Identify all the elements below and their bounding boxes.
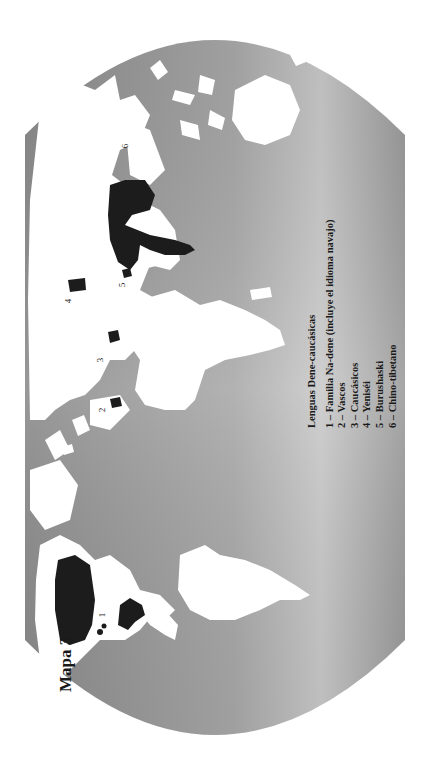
legend-item: 2 – Vascos	[336, 219, 349, 428]
region-label-6: 6	[120, 144, 130, 149]
region-label-5: 5	[117, 283, 127, 288]
legend-title: Lenguas Dene-caucásicas	[306, 219, 319, 428]
legend-item: 5 – Burushaski	[374, 219, 387, 428]
region-label-2: 2	[97, 408, 107, 413]
legend-item: 1 – Familia Na-dene (incluye el idioma n…	[324, 219, 337, 428]
legend-item: 4 – Yeniséi	[361, 219, 374, 428]
legend-item: 6 – Chino-tibetano	[387, 219, 400, 428]
region-vascos	[110, 397, 122, 408]
region-label-4: 4	[63, 299, 73, 304]
region-label-1: 1	[97, 613, 107, 618]
legend: Lenguas Dene-caucásicas 1 – Familia Na-d…	[306, 219, 399, 428]
region-yenisei	[68, 278, 86, 292]
region-label-3: 3	[95, 358, 105, 363]
map-title: Mapa 3	[56, 637, 76, 692]
legend-item: 3 – Caucásicos	[349, 219, 362, 428]
